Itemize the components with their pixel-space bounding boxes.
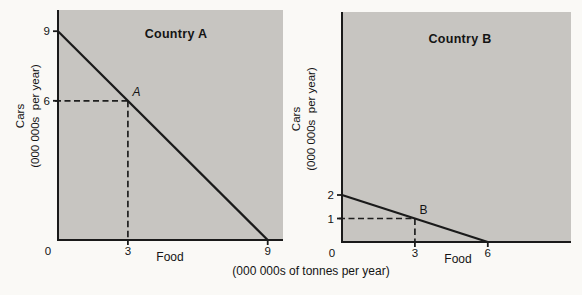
panel-a-y-axis-label-line1: Cars: [13, 31, 28, 201]
y-tick-label-1: 2: [328, 189, 334, 201]
y-tick-label-0: 6: [44, 95, 50, 107]
x-tick-label-1: 3: [412, 247, 418, 259]
x-tick-label-0: 3: [125, 245, 131, 257]
panel-b-y-axis-label: Cars (000 000s per year): [289, 34, 319, 204]
panel-b-title: Country B: [410, 32, 510, 46]
plot-area-0: [58, 10, 283, 240]
x-tick-label-0: 0: [45, 245, 51, 257]
panel-b-x-axis-label: Food: [428, 252, 488, 266]
panel-a-x-axis-label: Food: [140, 250, 200, 264]
plot-area-1: [342, 12, 571, 242]
y-tick-label-0: 9: [44, 25, 50, 37]
point-label-0: A: [131, 85, 140, 99]
point-label-1: B: [419, 203, 427, 217]
panel-b-y-axis-label-line2: (000 000s per year): [304, 34, 319, 204]
x-tick-label-1: 0: [329, 247, 335, 259]
x-tick-label-0: 9: [264, 245, 270, 257]
panel-a-title: Country A: [126, 27, 226, 41]
ppf-figure: 69039A12036B Country A Country B Cars (0…: [0, 0, 582, 295]
panel-a-y-axis-label: Cars (000 000s per year): [13, 31, 43, 201]
panel-b-y-axis-label-line1: Cars: [289, 34, 304, 204]
y-tick-label-1: 1: [328, 213, 334, 225]
units-caption: (000 000s of tonnes per year): [191, 264, 431, 278]
panel-a-y-axis-label-line2: (000 000s per year): [28, 31, 43, 201]
